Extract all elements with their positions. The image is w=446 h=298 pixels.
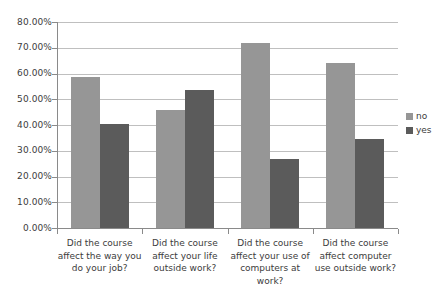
- y-axis-tick-label: 20.00%: [0, 172, 52, 181]
- legend-item-no[interactable]: no: [406, 110, 432, 123]
- x-axis-category-tick: [57, 229, 58, 234]
- x-axis-category-label-3: Did the course affect your use of comput…: [228, 237, 313, 287]
- bar-no-3: [241, 43, 270, 228]
- bar-no-2: [156, 110, 185, 228]
- y-axis-tick-mark: [52, 48, 57, 49]
- y-axis-tick-label: 40.00%: [0, 121, 52, 130]
- legend-label: no: [416, 112, 427, 121]
- bar-no-4: [326, 63, 355, 228]
- y-axis-tick-mark: [52, 177, 57, 178]
- y-axis-tick-mark: [52, 151, 57, 152]
- legend-label: yes: [416, 126, 432, 135]
- gridline: [57, 22, 398, 23]
- bar-yes-1: [100, 124, 129, 228]
- bar-yes-4: [355, 139, 384, 228]
- bar-yes-3: [270, 159, 299, 228]
- legend: noyes: [406, 110, 432, 138]
- y-axis-tick-label: 50.00%: [0, 95, 52, 104]
- x-axis-category-tick: [142, 229, 143, 234]
- legend-swatch-icon: [406, 113, 413, 120]
- y-axis: 80.00%70.00%60.00%50.00%40.00%30.00%20.0…: [0, 0, 52, 298]
- x-axis-category-tick: [398, 229, 399, 234]
- legend-swatch-icon: [406, 127, 413, 134]
- gridline: [57, 48, 398, 49]
- x-axis-category-label-4: Did the course affect computer use outsi…: [313, 237, 398, 275]
- y-axis-tick-label: 60.00%: [0, 69, 52, 78]
- x-axis-category-tick: [228, 229, 229, 234]
- bar-no-1: [71, 77, 100, 228]
- y-axis-tick-label: 0.00%: [0, 224, 52, 233]
- y-axis-tick-mark: [52, 202, 57, 203]
- y-axis-tick-mark: [52, 22, 57, 23]
- bar-chart: 80.00%70.00%60.00%50.00%40.00%30.00%20.0…: [0, 0, 446, 298]
- x-axis-category-label-1: Did the course affect the way you do you…: [57, 237, 142, 275]
- y-axis-line: [57, 22, 58, 229]
- y-axis-tick-label: 10.00%: [0, 198, 52, 207]
- y-axis-tick-label: 70.00%: [0, 43, 52, 52]
- legend-item-yes[interactable]: yes: [406, 124, 432, 137]
- y-axis-tick-mark: [52, 74, 57, 75]
- plot-area: [57, 22, 398, 228]
- y-axis-tick-label: 30.00%: [0, 146, 52, 155]
- x-axis-category-tick: [313, 229, 314, 234]
- x-axis-category-label-2: Did the course affect your life outside …: [142, 237, 227, 275]
- y-axis-tick-mark: [52, 125, 57, 126]
- y-axis-tick-mark: [52, 99, 57, 100]
- bar-yes-2: [185, 90, 214, 228]
- y-axis-tick-label: 80.00%: [0, 18, 52, 27]
